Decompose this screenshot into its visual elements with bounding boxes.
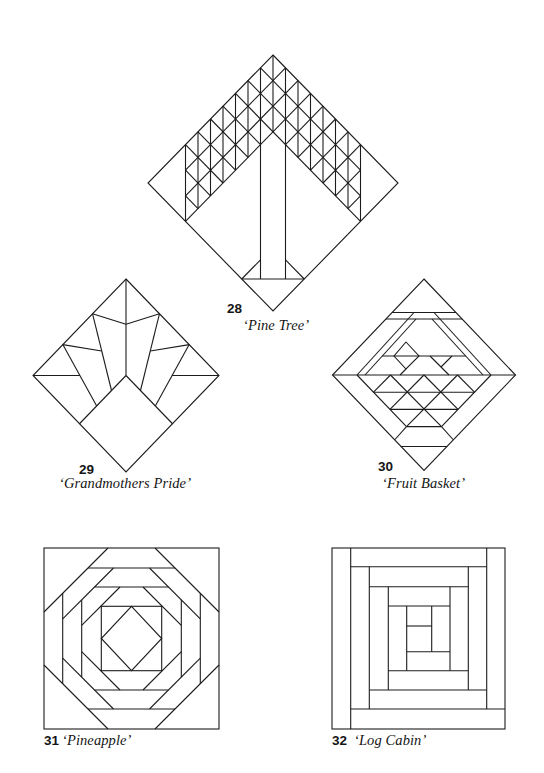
pineapple-block bbox=[44, 548, 219, 729]
quilt-block-diagrams bbox=[0, 0, 544, 773]
book-page: 28 ‘Pine Tree’ 29 ‘Grandmothers Pride’ 3… bbox=[0, 0, 544, 773]
figure-30-number: 30 bbox=[378, 460, 393, 474]
grandmothers-pride-block bbox=[33, 279, 219, 472]
figure-28-name: ‘Pine Tree’ bbox=[243, 318, 309, 333]
figure-31-number: 31 bbox=[44, 734, 59, 748]
figure-31-name: ‘Pineapple’ bbox=[62, 733, 132, 748]
figure-32-name: ‘Log Cabin’ bbox=[354, 733, 426, 748]
figure-30-name: ‘Fruit Basket’ bbox=[382, 476, 465, 491]
figure-28-number: 28 bbox=[227, 302, 242, 316]
log-cabin-block bbox=[332, 548, 505, 729]
figure-32-number: 32 bbox=[332, 734, 347, 748]
fruit-basket-block bbox=[333, 279, 516, 471]
figure-29-number: 29 bbox=[79, 463, 94, 477]
figure-29-name: ‘Grandmothers Pride’ bbox=[59, 476, 191, 491]
pine-tree-block bbox=[148, 55, 398, 311]
